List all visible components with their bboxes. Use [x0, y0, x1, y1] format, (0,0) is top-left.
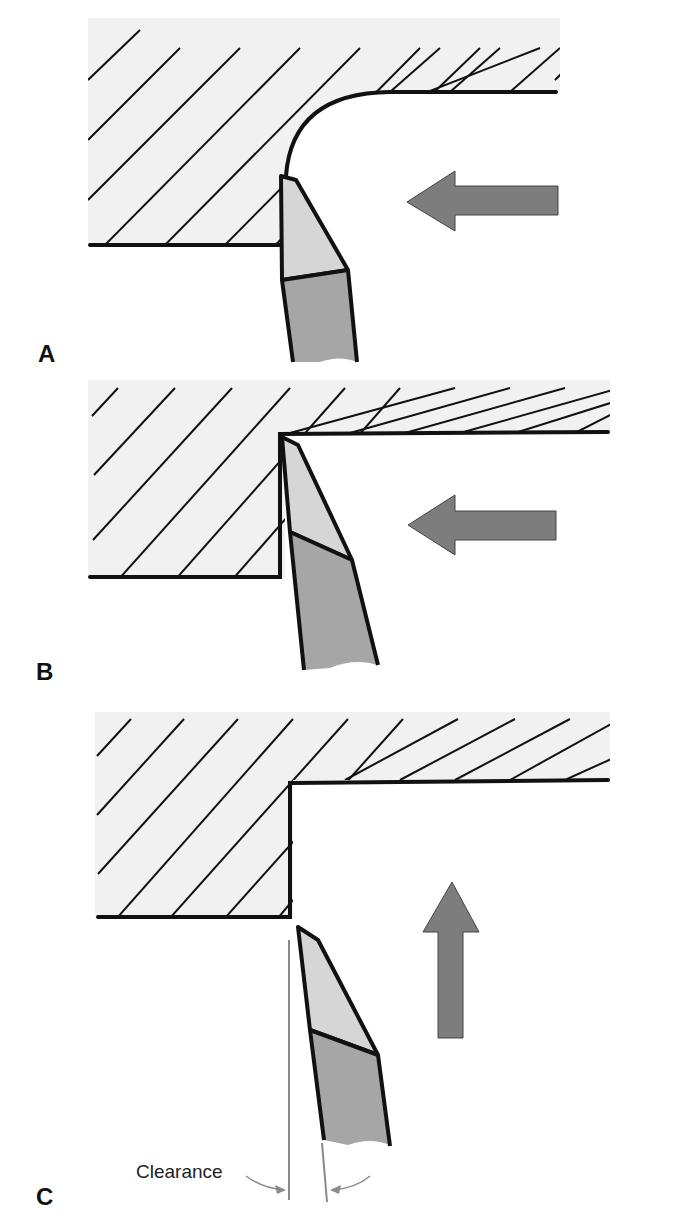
feed-arrow-up-c — [423, 882, 479, 1038]
panel-label-a: A — [38, 340, 55, 367]
panel-label-c: C — [36, 1183, 53, 1210]
workpiece-b — [88, 380, 610, 578]
feed-arrow-left-a — [407, 171, 558, 231]
clearance-label: Clearance — [136, 1161, 223, 1182]
tool-a-shank — [282, 270, 357, 362]
workpiece-c — [95, 712, 610, 917]
panel-label-b: B — [36, 658, 53, 685]
clearance-arrowhead-right-icon — [330, 1185, 341, 1194]
clearance-arrowhead-left-icon — [275, 1185, 286, 1194]
panel-b: B — [36, 380, 620, 685]
panel-a: A — [38, 18, 580, 367]
diagram-canvas: A B — [0, 0, 677, 1229]
tool-a-tip — [281, 176, 348, 280]
clearance-reference-line-tool — [322, 1143, 327, 1202]
feed-arrow-left-b — [408, 495, 556, 555]
panel-c: Clearance C — [36, 712, 620, 1210]
